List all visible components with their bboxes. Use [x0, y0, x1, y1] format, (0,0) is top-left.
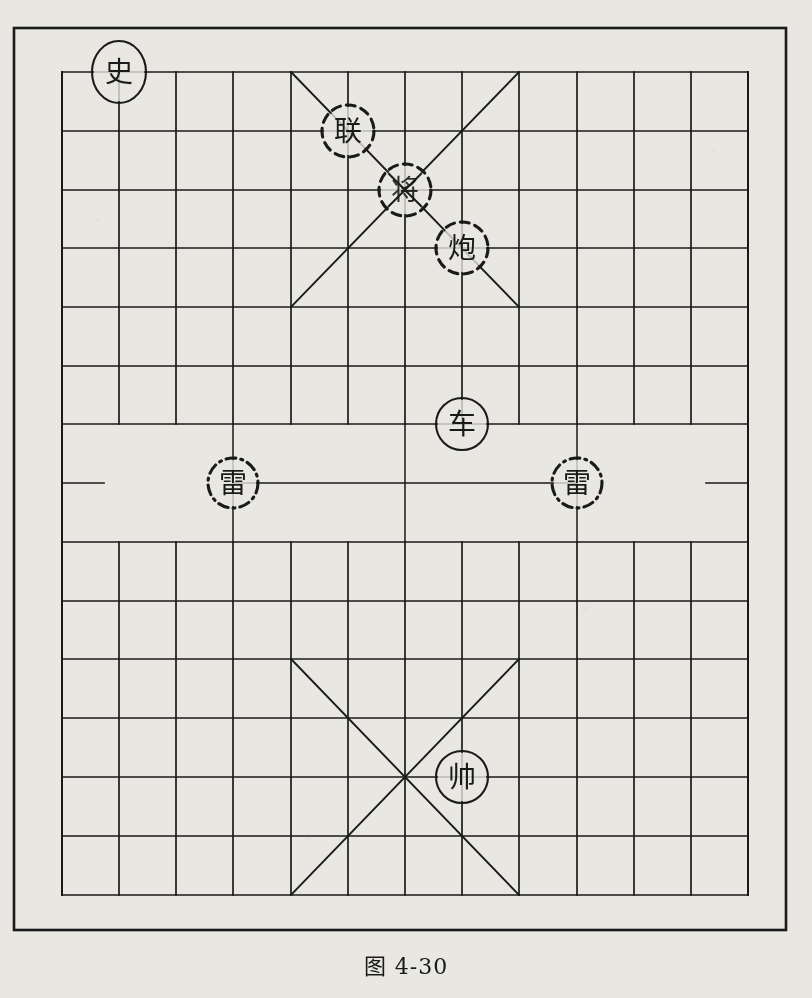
game-pieces: 史联将炮车雷雷帅 — [92, 41, 602, 803]
piece-label: 帅 — [448, 761, 476, 794]
outer-border — [14, 28, 786, 930]
piece-lei-left[interactable]: 雷 — [208, 458, 258, 508]
piece-ju[interactable]: 车 — [436, 398, 488, 450]
board-outer-frame — [14, 28, 786, 930]
piece-shuai[interactable]: 帅 — [436, 751, 488, 803]
piece-label: 雷 — [563, 467, 591, 500]
piece-label: 联 — [334, 115, 362, 148]
xiangqi-board: 史联将炮车雷雷帅 — [0, 0, 812, 998]
figure-root: 史联将炮车雷雷帅 图 4-30 — [0, 0, 812, 998]
piece-label: 雷 — [219, 467, 247, 500]
river-markings — [62, 424, 748, 542]
piece-lei-right[interactable]: 雷 — [552, 458, 602, 508]
piece-shi[interactable]: 史 — [92, 41, 146, 103]
piece-label: 车 — [448, 408, 476, 441]
piece-label: 史 — [105, 56, 133, 89]
figure-caption: 图 4-30 — [0, 948, 812, 980]
piece-label: 炮 — [448, 232, 476, 265]
